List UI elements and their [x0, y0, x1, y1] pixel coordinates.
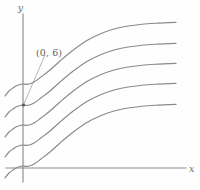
y-axis-label: y: [17, 2, 24, 13]
solution-curve-5: [5, 104, 176, 178]
solution-curves-group: [5, 22, 176, 178]
x-axis-label: x: [189, 163, 195, 174]
annotation-group: [22, 55, 45, 107]
solution-curve-3: [5, 63, 176, 137]
plot-canvas: x y: [0, 0, 200, 190]
axes-group: [6, 14, 186, 182]
annotation-point-marker: [22, 103, 25, 106]
point-annotation-label: (0, 6): [36, 47, 62, 58]
figure-container: x y (0, 6): [0, 0, 200, 190]
